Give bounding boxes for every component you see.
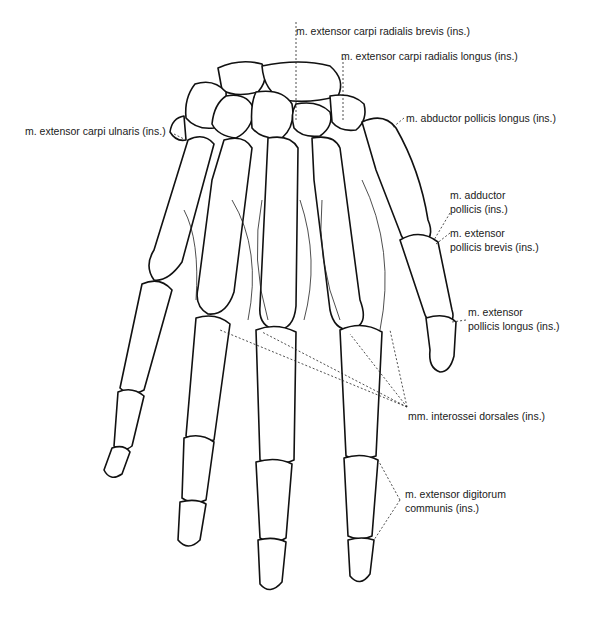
- label-epl-2: pollicis longus (ins.): [468, 320, 560, 332]
- label-ecu: m. extensor carpi ulnaris (ins.): [25, 125, 166, 137]
- label-adductor-1: m. adductor: [450, 189, 506, 201]
- label-edc-2: communis (ins.): [405, 502, 479, 514]
- label-ecrl: m. extensor carpi radialis longus (ins.): [341, 50, 518, 62]
- label-epl-1: m. extensor: [468, 306, 523, 318]
- label-interossei: mm. interossei dorsales (ins.): [408, 410, 545, 422]
- middle-finger: [256, 326, 296, 589]
- label-adductor-2: pollicis (ins.): [450, 203, 508, 215]
- hand-bones-diagram: m. extensor carpi radialis brevis (ins.)…: [0, 0, 589, 620]
- label-edc-1: m. extensor digitorum: [405, 488, 506, 500]
- label-apl: m. abductor pollicis longus (ins.): [406, 112, 556, 124]
- carpal-bones: [170, 62, 365, 141]
- little-finger: [104, 281, 172, 477]
- thumb-phalanges: [400, 234, 456, 372]
- label-ecrb: m. extensor carpi radialis brevis (ins.): [296, 25, 470, 37]
- metacarpal-bones: [149, 118, 431, 330]
- label-epb-2: pollicis brevis (ins.): [450, 241, 539, 253]
- index-finger: [340, 325, 382, 581]
- ring-finger: [178, 316, 230, 546]
- label-epb-1: m. extensor: [450, 227, 505, 239]
